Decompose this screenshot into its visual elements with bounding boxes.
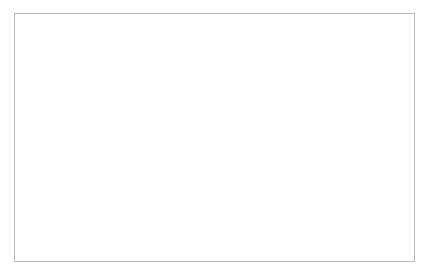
figure-outer-frame [14, 13, 415, 262]
figure-container: 01,000,0002,000,0003,000,0004,000,0005,0… [0, 0, 428, 276]
